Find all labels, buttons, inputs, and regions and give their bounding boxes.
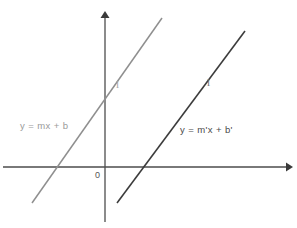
geometry-figure: 0 l y = mx + b l y = m'x + b' <box>0 0 297 228</box>
diagram-canvas <box>0 0 297 228</box>
equation-label-dark: y = m'x + b' <box>180 124 233 135</box>
line-dark-mprime-x-plus-bprime <box>117 31 245 203</box>
equation-label-gray: y = mx + b <box>20 120 68 131</box>
x-axis-arrow-icon <box>286 163 293 172</box>
y-axis-arrow-icon <box>101 11 110 18</box>
origin-label: 0 <box>95 170 100 180</box>
line-label-l-dark: l <box>207 77 210 88</box>
line-label-l-gray: l <box>116 79 119 90</box>
